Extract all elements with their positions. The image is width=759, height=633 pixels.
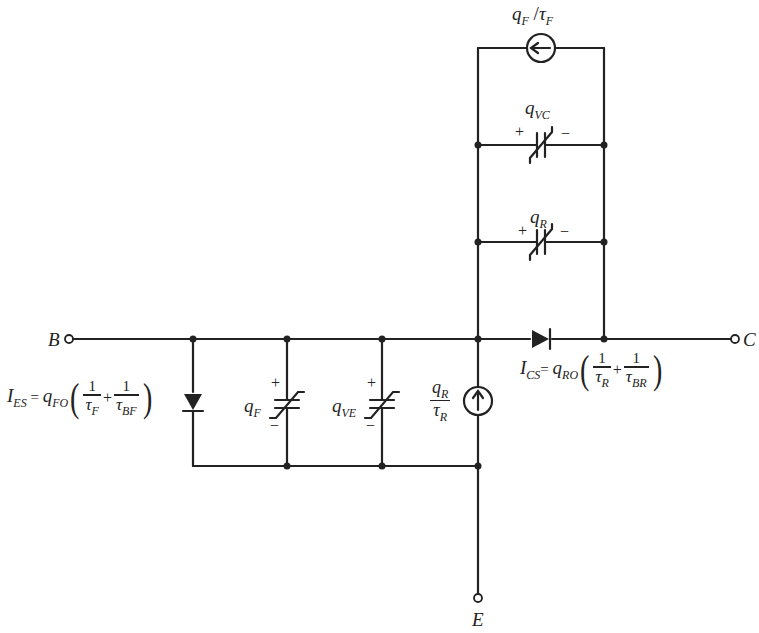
collector-terminal-label: C [743,330,756,349]
junction-dots [190,142,608,470]
base-terminal-label: B [48,330,60,349]
forward-source-label: qF /τF [512,4,553,27]
cap-qve-minus: − [366,418,375,434]
emitter-diode-icon [183,394,203,411]
base-terminal [65,335,73,343]
collector-diode-equation: ICS= qRO(1τR+1τBR) [520,350,664,390]
current-source-forward-icon [527,34,555,62]
emitter-diode-equation: IES = qFO(1τF+1τBF) [7,378,154,418]
collector-diode-icon [532,329,550,349]
cap-qvc-plus: + [515,124,524,140]
cap-qve-plus: + [367,375,376,391]
cap-qve-label: qVE [332,396,356,419]
cap-qf-label: qF [244,396,261,419]
current-source-reverse-icon [464,387,492,415]
reverse-source-label: qR τR [428,378,452,423]
collector-terminal [731,335,739,343]
emitter-terminal [474,594,482,602]
cap-qvc-label: qVC [525,98,550,121]
cap-qf-minus: − [270,418,279,434]
cap-qvc-minus: − [561,126,570,142]
circuit-schematic [0,0,759,633]
cap-qf-plus: + [271,375,280,391]
emitter-terminal-label: E [472,610,484,629]
cap-qr-plus: + [518,223,527,239]
cap-qr-label: qR [530,207,547,230]
cap-qr-minus: − [560,224,569,240]
